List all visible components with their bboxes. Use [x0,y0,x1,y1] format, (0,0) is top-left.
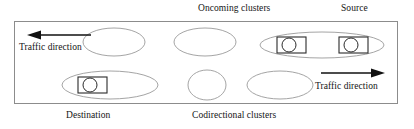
traffic-direction-left-label: Traffic direction [19,42,82,53]
source-label: Source [341,3,368,14]
codirectional-clusters-label: Codirectional clusters [192,110,276,121]
destination-label: Destination [66,110,110,121]
traffic-cluster-figure: Oncoming clusters Source [0,0,414,129]
traffic-direction-right-label: Traffic direction [315,81,378,92]
oncoming-clusters-label: Oncoming clusters [198,3,270,14]
